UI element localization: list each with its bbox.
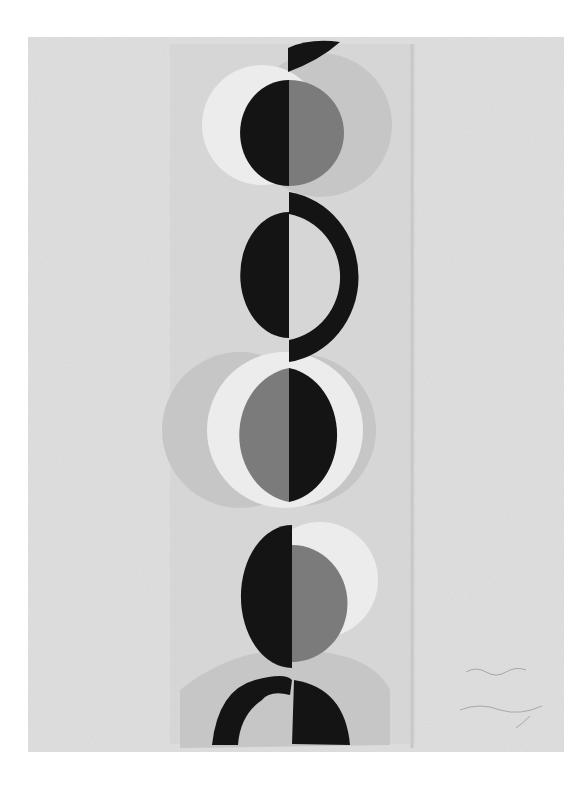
painting bbox=[0, 0, 588, 786]
